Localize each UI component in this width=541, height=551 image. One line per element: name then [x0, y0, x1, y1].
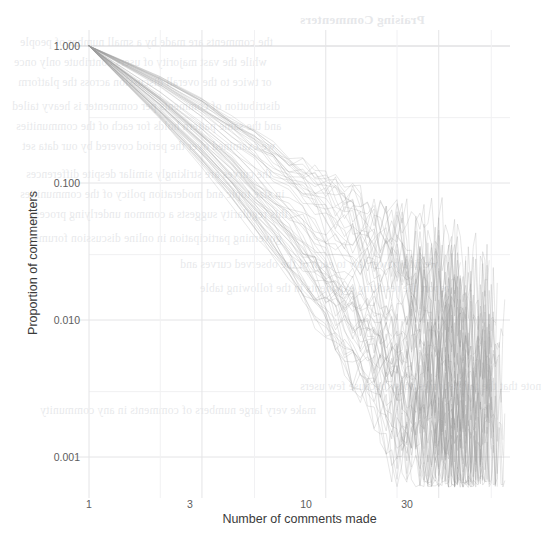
x-tick-label: 30	[387, 498, 427, 510]
x-tick-label: 10	[286, 498, 326, 510]
y-axis-title: Proportion of commenters	[26, 168, 40, 358]
x-axis-title: Number of comments made	[89, 512, 510, 526]
y-tick-label: 0.001	[18, 451, 80, 463]
x-tick-label: 1	[69, 498, 109, 510]
data-lines-layer	[89, 46, 505, 487]
y-tick-label: 1.000	[18, 40, 80, 52]
x-tick-label: 3	[170, 498, 210, 510]
